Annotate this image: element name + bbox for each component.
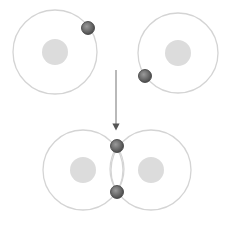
nucleus bbox=[42, 39, 68, 65]
shared-electron bbox=[111, 140, 124, 153]
nucleus bbox=[70, 157, 96, 183]
right-atom bbox=[138, 13, 218, 93]
nucleus bbox=[138, 157, 164, 183]
left-atom bbox=[13, 10, 97, 94]
nucleus bbox=[165, 40, 191, 66]
shared-electron bbox=[111, 186, 124, 199]
covalent-bond-diagram bbox=[0, 0, 229, 228]
electron bbox=[82, 22, 95, 35]
electron bbox=[139, 70, 152, 83]
molecule-after bbox=[43, 130, 191, 210]
